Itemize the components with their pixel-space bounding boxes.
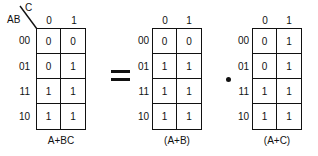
col-label-1: 1	[177, 15, 201, 26]
cell: 1	[177, 54, 201, 79]
row-label-01: 01	[10, 61, 30, 72]
map-caption: (A+C)	[252, 135, 302, 146]
cell: 1	[253, 104, 277, 129]
map-caption: A+BC	[36, 135, 86, 146]
cell: 1	[37, 79, 61, 104]
kmap-grid: 0 1 0 1 1 1 1 1	[252, 28, 302, 130]
cell: 1	[177, 104, 201, 129]
row-label-11: 11	[129, 86, 149, 97]
cell: 1	[153, 104, 177, 129]
row-label-10: 10	[129, 111, 149, 122]
cell: 1	[277, 79, 301, 104]
cell: 0	[37, 54, 61, 79]
row-label-00: 00	[10, 35, 30, 46]
kmap-grid: 0 0 1 1 1 1 1 1	[152, 28, 202, 130]
cell: 1	[61, 54, 85, 79]
cell: 1	[153, 54, 177, 79]
cell: 1	[61, 104, 85, 129]
cell: 1	[277, 29, 301, 54]
cell: 1	[277, 54, 301, 79]
col-label-1: 1	[277, 15, 301, 26]
cell: 0	[177, 29, 201, 54]
col-label-0: 0	[37, 15, 61, 26]
row-label-00: 00	[129, 35, 149, 46]
col-label-0: 0	[253, 15, 277, 26]
col-variable-label: C	[25, 2, 32, 13]
cell: 0	[37, 29, 61, 54]
row-label-01: 01	[229, 61, 249, 72]
row-variable-label: AB	[7, 14, 20, 25]
cell: 1	[153, 79, 177, 104]
cell: 1	[253, 79, 277, 104]
row-label-00: 00	[229, 35, 249, 46]
cell: 0	[61, 29, 85, 54]
cell: 0	[153, 29, 177, 54]
row-label-11: 11	[10, 86, 30, 97]
cell: 1	[277, 104, 301, 129]
cell: 1	[37, 104, 61, 129]
col-label-0: 0	[153, 15, 177, 26]
kmap-grid: 0 0 0 1 1 1 1 1	[36, 28, 86, 130]
map-caption: (A+B)	[152, 135, 202, 146]
and-dot-icon	[226, 77, 231, 82]
cell: 1	[177, 79, 201, 104]
cell: 0	[253, 54, 277, 79]
row-label-10: 10	[229, 111, 249, 122]
row-label-10: 10	[10, 111, 30, 122]
row-label-11: 11	[229, 86, 249, 97]
cell: 0	[253, 29, 277, 54]
col-label-1: 1	[62, 15, 86, 26]
cell: 1	[61, 79, 85, 104]
row-label-01: 01	[129, 61, 149, 72]
